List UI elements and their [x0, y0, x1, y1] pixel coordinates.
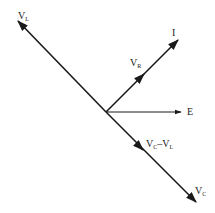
vr-label: VR [130, 58, 141, 69]
vl-label: VL [18, 11, 29, 22]
phasor-vectors [0, 0, 215, 213]
e-label: E [187, 107, 193, 117]
phasor-diagram: VL I VR E VC–VL VC [0, 0, 215, 213]
vc-minus-vl-label: VC–VL [146, 139, 173, 150]
vl-vector [18, 21, 106, 112]
vr-arrow [138, 74, 144, 80]
vc-label: VC [195, 186, 206, 197]
vc-vector [106, 112, 196, 202]
i-label: I [172, 28, 175, 38]
